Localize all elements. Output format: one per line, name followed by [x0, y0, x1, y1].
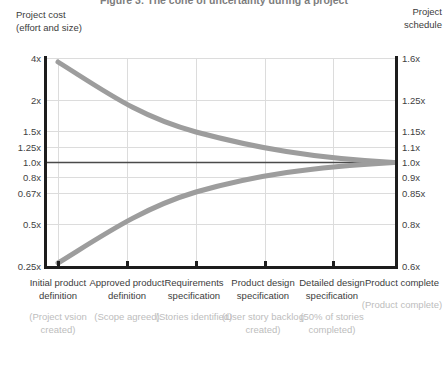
- x-axis-tick-1: [126, 261, 129, 267]
- y-tick-right-1-6x: 1.6x: [402, 53, 420, 64]
- y-axis-right-title: Project schedule: [404, 6, 442, 31]
- plot-area: [46, 58, 396, 267]
- y-axis-left-spine: [44, 56, 47, 269]
- x-category-product-complete: Product complete (Product complete): [360, 277, 444, 311]
- y-tick-left-1x: 1.0x: [23, 157, 41, 168]
- x-category-note-4: (50% of stories completed): [290, 311, 374, 336]
- y-axis-right-title-line2: schedule: [404, 19, 442, 32]
- chart-canvas: [46, 58, 396, 267]
- x-category-label-5: Product complete: [360, 277, 444, 290]
- y-tick-left-2x: 2x: [31, 95, 41, 106]
- cone-of-uncertainty-figure: Figure 3: The cone of uncertainty during…: [0, 0, 448, 380]
- y-tick-left-4x: 4x: [31, 53, 41, 64]
- y-tick-right-0-8x: 0.8x: [402, 219, 420, 230]
- x-axis-spine: [44, 266, 397, 269]
- y-tick-left-0-5x: 0.5x: [23, 219, 41, 230]
- y-tick-right-0-6x: 0.6x: [402, 261, 420, 272]
- y-tick-left-1-5x: 1.5x: [23, 126, 41, 137]
- y-axis-left-title-line2: (effort and size): [16, 22, 82, 35]
- y-tick-right-0-85x: 0.85x: [402, 188, 425, 199]
- y-tick-right-0-9x: 0.9x: [402, 172, 420, 183]
- figure-caption: Figure 3: The cone of uncertainty during…: [0, 0, 448, 6]
- y-tick-left-1-25x: 1.25x: [18, 142, 41, 153]
- x-axis-tick-3: [264, 261, 267, 267]
- y-axis-left-title: Project cost (effort and size): [16, 9, 82, 34]
- y-axis-right-title-line1: Project: [404, 6, 442, 19]
- x-axis-tick-4: [332, 261, 335, 267]
- y-tick-left-0-67x: 0.67x: [18, 188, 41, 199]
- x-axis-tick-2: [195, 261, 198, 267]
- y-tick-left-0-8x: 0.8x: [23, 172, 41, 183]
- y-tick-right-1-25x: 1.25x: [402, 95, 425, 106]
- y-tick-right-1-1x: 1.1x: [402, 142, 420, 153]
- y-tick-right-1x: 1.0x: [402, 157, 420, 168]
- y-tick-right-1-15x: 1.15x: [402, 126, 425, 137]
- y-axis-left-title-line1: Project cost: [16, 9, 82, 22]
- y-axis-right-spine: [395, 56, 398, 269]
- x-axis-tick-0: [57, 261, 60, 267]
- x-category-note-5: (Product complete): [360, 299, 444, 312]
- y-tick-left-0-25x: 0.25x: [18, 261, 41, 272]
